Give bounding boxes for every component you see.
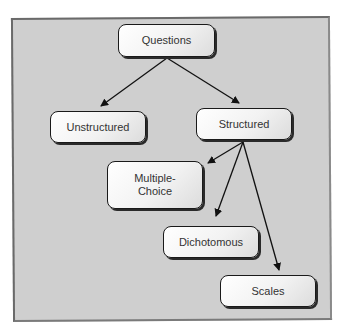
node-questions: Questions: [118, 24, 215, 57]
node-label: Structured: [219, 118, 270, 131]
node-label-line1: Multiple-: [134, 172, 176, 185]
node-label: Questions: [142, 34, 192, 47]
node-unstructured: Unstructured: [50, 111, 146, 143]
edge-questions-structured: [167, 58, 239, 103]
edge-structured-dichotomous: [216, 142, 243, 216]
node-label-line2: Choice: [138, 185, 172, 198]
node-multiple-choice: Multiple- Choice: [107, 161, 203, 209]
node-label: Scales: [251, 285, 284, 298]
node-label: Unstructured: [67, 121, 130, 134]
node-scales: Scales: [220, 275, 316, 307]
node-dichotomous: Dichotomous: [163, 226, 259, 258]
node-structured: Structured: [196, 108, 292, 140]
node-label: Dichotomous: [179, 236, 243, 249]
edge-structured-multiple-choice: [208, 142, 243, 163]
edge-questions-unstructured: [101, 58, 167, 106]
